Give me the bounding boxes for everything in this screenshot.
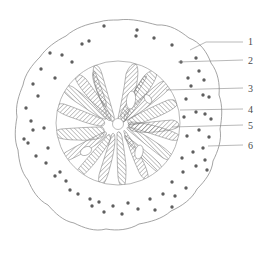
cortex-cell-dot bbox=[184, 186, 187, 189]
cortex-cell-dot bbox=[88, 197, 91, 200]
cortex-cell-dot bbox=[201, 93, 204, 96]
cortex-cell-dot bbox=[161, 192, 164, 195]
cortex-cell-dot bbox=[148, 197, 151, 200]
cortex-cell-dot bbox=[90, 204, 93, 207]
cortex-cell-dot bbox=[87, 39, 90, 42]
cortex-cell-dot bbox=[136, 207, 139, 210]
cortex-cell-dot bbox=[194, 110, 197, 113]
cortex-cell-dot bbox=[70, 60, 73, 63]
cortex-cell-dot bbox=[102, 210, 105, 213]
callout-label-4: 4 bbox=[248, 104, 253, 115]
cortex-cell-dot bbox=[152, 36, 155, 39]
cortex-cell-dot bbox=[194, 164, 197, 167]
cortex-cell-dot bbox=[120, 212, 123, 215]
cortex-cell-dot bbox=[39, 67, 42, 70]
cortex-cell-dot bbox=[29, 119, 32, 122]
cortex-cell-dot bbox=[34, 154, 37, 157]
cortex-cell-dot bbox=[170, 43, 173, 46]
callout-label-5: 5 bbox=[248, 120, 253, 131]
cortex-cell-dot bbox=[203, 112, 206, 115]
callout-label-1: 1 bbox=[248, 36, 253, 47]
cortex-cell-dot bbox=[153, 208, 156, 211]
cortex-cell-dot bbox=[64, 179, 67, 182]
cortex-cell-dot bbox=[184, 97, 187, 100]
cortex-cell-dot bbox=[97, 200, 100, 203]
cortex-cell-dot bbox=[134, 34, 137, 37]
figure-container: 123456 bbox=[0, 0, 264, 253]
cortex-cell-dot bbox=[194, 56, 197, 59]
cortex-cell-dot bbox=[207, 95, 210, 98]
cortex-cell-dot bbox=[197, 128, 200, 131]
cortex-cell-dot bbox=[180, 156, 183, 159]
cortex-cell-dot bbox=[173, 194, 176, 197]
cortex-cell-dot bbox=[201, 146, 204, 149]
cortex-cell-dot bbox=[189, 84, 192, 87]
cortex-cell-dot bbox=[185, 134, 188, 137]
callout-label-3: 3 bbox=[248, 83, 253, 94]
cortex-cell-dot bbox=[58, 170, 61, 173]
cortex-cell-dot bbox=[46, 146, 49, 149]
cortex-cell-dot bbox=[76, 192, 79, 195]
cortex-cell-dot bbox=[80, 42, 83, 45]
cortex-cell-dot bbox=[181, 170, 184, 173]
cortex-cell-dot bbox=[202, 78, 205, 81]
cortex-cell-dot bbox=[182, 115, 185, 118]
cortex-cell-dot bbox=[197, 69, 200, 72]
cortex-cell-dot bbox=[26, 141, 29, 144]
cortex-cell-dot bbox=[170, 205, 173, 208]
cortex-cell-dot bbox=[191, 150, 194, 153]
cortex-cell-dot bbox=[203, 158, 206, 161]
cortex-cell-dot bbox=[48, 51, 51, 54]
cortex-cell-dot bbox=[31, 128, 34, 131]
cortex-cell-dot bbox=[186, 76, 189, 79]
cortex-cell-dot bbox=[170, 180, 173, 183]
cortex-cell-dot bbox=[42, 126, 45, 129]
cortex-cell-dot bbox=[24, 106, 27, 109]
root-cross-section-diagram: 123456 bbox=[0, 0, 264, 253]
cortex-cell-dot bbox=[53, 76, 56, 79]
cortex-cell-dot bbox=[205, 168, 208, 171]
cortex-cell-dot bbox=[31, 82, 34, 85]
cortex-cell-dot bbox=[135, 28, 138, 31]
cortex-cell-dot bbox=[60, 53, 63, 56]
cortex-cell-dot bbox=[44, 161, 47, 164]
cortex-cell-dot bbox=[102, 24, 105, 27]
cortex-cell-dot bbox=[36, 94, 39, 97]
cortex-cell-dot bbox=[68, 188, 71, 191]
pith-center bbox=[113, 119, 124, 130]
cortex-cell-dot bbox=[22, 137, 25, 140]
cortex-cell-dot bbox=[126, 201, 129, 204]
cortex-cell-dot bbox=[207, 135, 210, 138]
cortex-cell-dot bbox=[209, 117, 212, 120]
cortex-cell-dot bbox=[53, 174, 56, 177]
cortex-cell-dot bbox=[111, 204, 114, 207]
callout-label-2: 2 bbox=[248, 55, 253, 66]
callout-label-6: 6 bbox=[248, 140, 253, 151]
